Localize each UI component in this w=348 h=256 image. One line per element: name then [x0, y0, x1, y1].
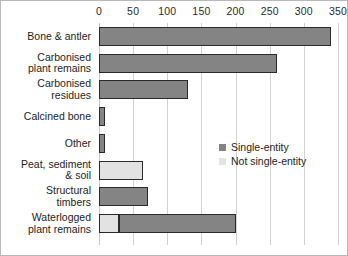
bar-row	[99, 80, 338, 99]
legend-label: Single-entity	[231, 141, 289, 153]
x-tick-label: 150	[192, 5, 210, 17]
x-tick-label: 300	[295, 5, 313, 17]
bar-segment	[99, 80, 188, 99]
legend-entry: Single-entity	[219, 140, 339, 154]
bar-chart-figure: 050100150200250300350 Bone & antlerCarbo…	[0, 0, 348, 256]
bar-row	[99, 54, 338, 73]
chart-legend: Single-entityNot single-entity	[219, 140, 339, 168]
legend-entry: Not single-entity	[219, 154, 339, 168]
x-tick-label: 250	[261, 5, 279, 17]
gridline	[338, 23, 339, 245]
bar-segment	[119, 214, 235, 233]
x-tick-label: 50	[127, 5, 139, 17]
y-axis-category-labels: Bone & antlerCarbonised plant remainsCar…	[1, 23, 95, 237]
x-tick-label: 0	[96, 5, 102, 17]
legend-swatch-icon	[219, 144, 226, 151]
y-axis-category-label: Carbonised plant remains	[28, 52, 91, 75]
x-axis-tick-labels: 050100150200250300350	[1, 1, 348, 23]
bar-row	[99, 187, 338, 206]
y-axis-category-label: Calcined bone	[24, 111, 91, 123]
y-axis-category-label: Bone & antler	[27, 31, 91, 43]
y-axis-category-label: Waterlogged plant remains	[28, 212, 91, 235]
bar-segment	[99, 187, 148, 206]
bar-segment	[99, 27, 331, 46]
y-axis-category-label: Carbonised residues	[37, 78, 91, 101]
bar-row	[99, 107, 338, 126]
bars-layer	[99, 23, 338, 237]
bar-row	[99, 27, 338, 46]
x-tick-label: 200	[227, 5, 245, 17]
legend-swatch-icon	[219, 158, 226, 165]
x-tick-label: 350	[329, 5, 347, 17]
legend-label: Not single-entity	[231, 155, 306, 167]
y-axis-category-label: Other	[65, 138, 91, 150]
bar-row	[99, 214, 338, 233]
bar-segment	[99, 134, 105, 153]
bar-segment	[99, 54, 277, 73]
x-tick-label: 100	[158, 5, 176, 17]
bar-segment	[99, 214, 119, 233]
bar-segment	[99, 107, 105, 126]
y-axis-category-label: Peat, sediment & soil	[21, 159, 91, 182]
bar-segment	[99, 161, 143, 180]
y-axis-category-label: Structural timbers	[46, 185, 91, 208]
